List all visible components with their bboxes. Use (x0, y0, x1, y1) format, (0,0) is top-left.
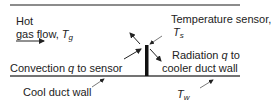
sensor-label-line1: Temperature sensor, (171, 13, 271, 26)
radiation-label-line1: Radiation q to (168, 49, 240, 62)
convection-arrow (124, 49, 141, 59)
hot-gas-text: gas flow, (16, 28, 62, 40)
radiation-arrow-up (130, 33, 140, 44)
gas-temp-subscript: g (69, 33, 73, 42)
radiation-label: Radiation q to cooler duct wall (168, 49, 240, 75)
wall-temp-leader-arrow (200, 80, 213, 88)
sensor-temp-subscript: s (180, 31, 184, 40)
gas-temp-symbol: T (62, 28, 69, 40)
radiation-text-post: to (228, 49, 240, 61)
radiation-text: Radiation (172, 49, 222, 61)
wall-temp-subscript: w (184, 93, 190, 102)
cool-wall-label: Cool duct wall (23, 86, 91, 99)
convection-label: Convection q to sensor (10, 62, 123, 75)
sensor-label: Temperature sensor, Ts (171, 13, 271, 39)
hot-gas-label: Hot gas flow, Tg (16, 15, 73, 41)
wall-temp-symbol: T (177, 88, 184, 100)
wall-temp-label: Tw (177, 88, 190, 101)
convection-text-post: to sensor (74, 62, 122, 74)
sensor-temp-symbol: T (173, 26, 180, 38)
radiation-arrow-down (150, 49, 161, 61)
hot-gas-label-line2: gas flow, Tg (16, 28, 73, 41)
sensor-leader-arrow (150, 36, 162, 44)
temperature-sensor (145, 45, 149, 76)
convection-text: Convection (10, 62, 68, 74)
cool-wall-leader-arrow (92, 79, 104, 87)
radiation-label-line2: cooler duct wall (162, 62, 240, 75)
sensor-label-line2: Ts (171, 26, 271, 39)
hot-gas-label-line1: Hot (16, 15, 73, 28)
